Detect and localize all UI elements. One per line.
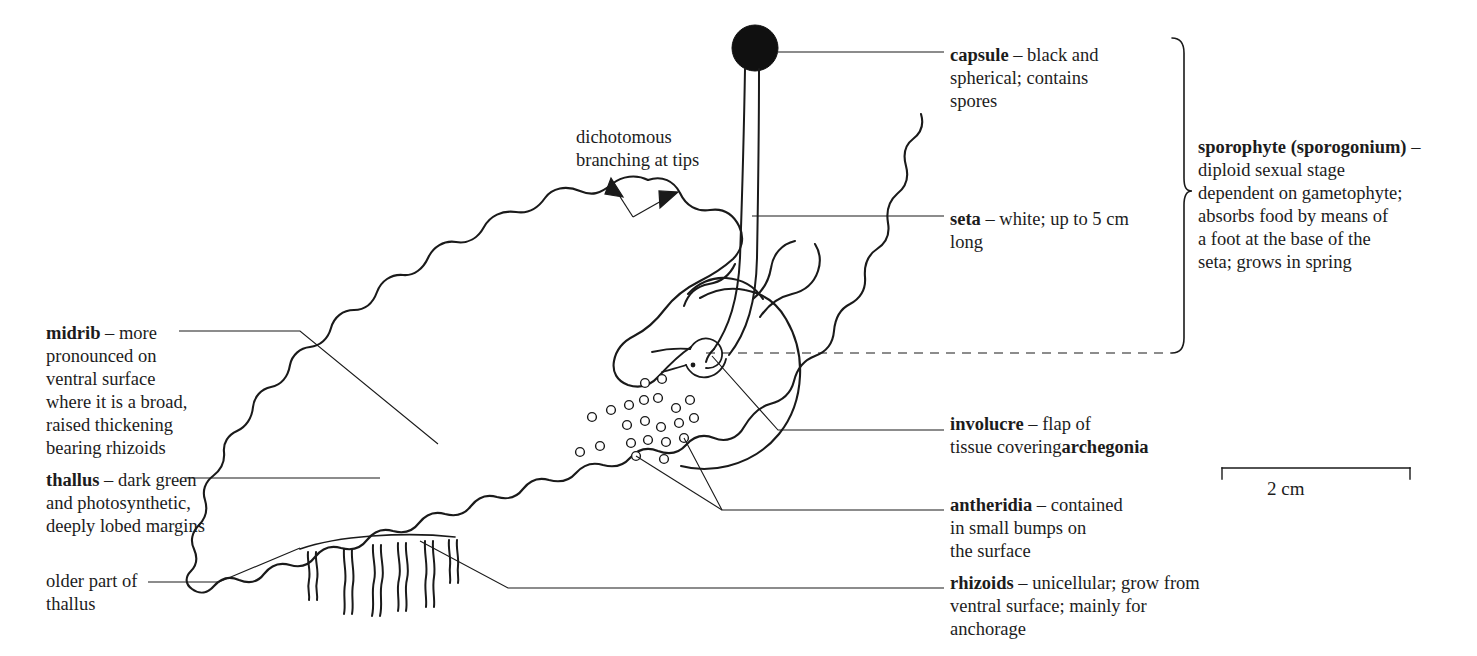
callout-older-part-of-thallus: older part of thallus	[46, 570, 246, 616]
callout-midrib-dash: –	[100, 323, 119, 343]
antheridium-bump	[686, 396, 695, 405]
leader-rhizoids	[420, 541, 944, 588]
callout-sporophyte-term: sporophyte (sporogonium)	[1198, 137, 1407, 157]
callout-sporophyte: sporophyte (sporogonium) – diploid sexua…	[1198, 136, 1468, 274]
rhizoid-filament-short	[308, 552, 310, 600]
callout-midrib-term: midrib	[46, 323, 100, 343]
antheridium-bump	[576, 448, 585, 457]
callout-thallus: thallus – dark green and photosynthetic,…	[46, 469, 266, 538]
leader-antheridia-a	[684, 438, 944, 510]
antheridium-bump	[588, 413, 597, 422]
arrow-head-right	[659, 191, 678, 208]
callout-thallus-dash: –	[99, 470, 118, 490]
rhizoid-filament	[380, 545, 383, 616]
archegonium-dot	[691, 363, 696, 368]
leader-involucre	[712, 356, 944, 430]
leader-antheridia-b	[636, 456, 722, 510]
callout-seta-term: seta	[950, 209, 981, 229]
antheridium-bump	[690, 414, 699, 423]
callout-antheridia: antheridia – contained in small bumps on…	[950, 494, 1200, 563]
antheridium-bump	[640, 396, 649, 405]
callout-involucre-archegonia-term: archegonia	[1062, 437, 1149, 457]
callout-rhizoids-dash: –	[1014, 573, 1033, 593]
antheridium-bump	[627, 439, 636, 448]
antheridium-bump	[658, 375, 667, 384]
thallus-right-bulge-group	[681, 278, 800, 469]
rhizoid-filament	[433, 541, 435, 607]
callout-involucre-term: involucre	[950, 414, 1024, 434]
callout-seta-dash: –	[981, 209, 1000, 229]
callout-involucre-dash: –	[1024, 414, 1043, 434]
rhizoid-filament-short	[449, 540, 450, 583]
thallus-outline-group	[187, 114, 923, 593]
antheridium-bump	[672, 404, 681, 413]
antheridium-bump	[625, 401, 634, 410]
rhizoid-filament	[425, 541, 427, 607]
rhizoid-filament	[398, 543, 400, 611]
dichotomous-arrows-group	[605, 178, 678, 217]
thallus-right-bulge	[681, 289, 800, 469]
antheridium-bump	[657, 423, 666, 432]
involucre-group	[652, 338, 726, 377]
callout-midrib: midrib – more pronounced on ventral surf…	[46, 322, 246, 460]
callout-seta: seta – white; up to 5 cm long	[950, 208, 1200, 254]
rhizoids-group	[300, 535, 458, 616]
sporophyte-group	[706, 25, 778, 362]
rhizoid-filament	[352, 549, 354, 614]
callout-thallus-term: thallus	[46, 470, 99, 490]
callout-rhizoids-term: rhizoids	[950, 573, 1014, 593]
arrow-head-left	[605, 178, 623, 197]
antheridium-bump	[662, 438, 671, 447]
sporophyte-curly-brace	[1172, 38, 1192, 353]
callout-dichotomous-branching: dichotomous branching at tips	[576, 126, 786, 172]
callout-antheridia-term: antheridia	[950, 495, 1032, 515]
arrow-branch-stem-right	[633, 200, 663, 217]
antheridium-bump	[623, 421, 632, 430]
scale-bar-caption: 2 cm	[1267, 478, 1304, 500]
callout-capsule-dash: –	[1009, 45, 1028, 65]
callout-rhizoids: rhizoids – unicellular; grow from ventra…	[950, 572, 1280, 641]
antheridium-bump	[644, 436, 653, 445]
antheridium-bump	[607, 406, 616, 415]
thallus-right-lobe	[760, 244, 820, 317]
seta-foot	[706, 349, 714, 362]
scale-bar-group	[1222, 468, 1410, 479]
antheridium-bump	[654, 394, 663, 403]
thallus-right-margin	[753, 241, 795, 299]
figure-canvas: capsule – black and spherical; contains …	[0, 0, 1477, 656]
rhizoid-filament	[372, 545, 375, 616]
callout-involucre: involucre – flap of tissue coveringarche…	[950, 413, 1180, 459]
callout-sporophyte-dash: –	[1407, 137, 1421, 157]
antheridium-bump	[641, 379, 650, 388]
callout-midrib-description: more pronounced on ventral surface where…	[46, 323, 187, 458]
antheridium-bump	[660, 455, 669, 464]
callout-capsule-term: capsule	[950, 45, 1009, 65]
leader-lines-group	[148, 52, 944, 588]
callout-antheridia-dash: –	[1032, 495, 1051, 515]
rhizoid-filament-short	[316, 552, 318, 600]
rhizoid-filament	[406, 543, 408, 611]
capsule-shape	[732, 25, 778, 71]
antheridium-bump	[641, 417, 650, 426]
antheridium-bump	[675, 419, 684, 428]
rhizoid-filament	[344, 549, 346, 614]
antheridium-bump	[596, 442, 605, 451]
callout-sporophyte-description: diploid sexual stage dependent on gameto…	[1198, 160, 1402, 272]
thallus-outline	[187, 114, 923, 593]
callout-capsule: capsule – black and spherical; contains …	[950, 44, 1170, 113]
